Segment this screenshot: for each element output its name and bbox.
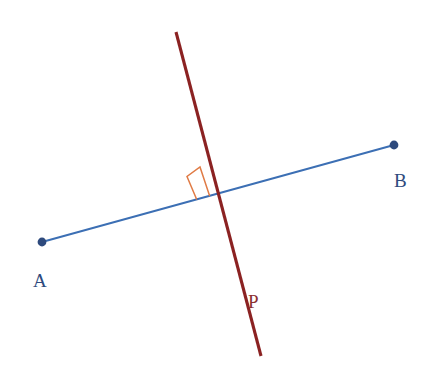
geometry-figure	[0, 0, 434, 370]
point-b-dot	[390, 141, 399, 150]
line-p-label: P	[248, 291, 259, 313]
point-a-dot	[38, 238, 47, 247]
point-b-label: B	[394, 170, 407, 192]
point-a-label: A	[33, 270, 47, 292]
diagram-canvas: A B P	[0, 0, 434, 370]
